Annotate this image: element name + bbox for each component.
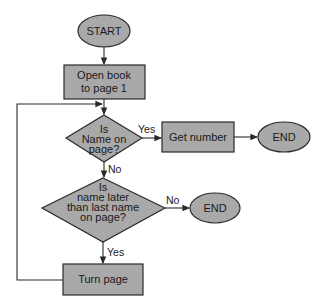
end-label-2: END — [203, 202, 226, 214]
open-book-label-line2: to page 1 — [81, 82, 127, 94]
end-terminator-not-found: END — [190, 193, 240, 223]
open-book-process: Open book to page 1 — [64, 65, 145, 99]
edge-label-no-1: No — [108, 163, 122, 175]
edge-label-yes-2: Yes — [107, 246, 124, 258]
flowchart-canvas: START Open book to page 1 Is Name on pag… — [0, 0, 323, 306]
start-label: START — [86, 25, 121, 37]
end-label-1: END — [272, 131, 295, 143]
get-number-label: Get number — [169, 131, 227, 143]
get-number-process: Get number — [162, 122, 234, 152]
edge-label-no-2: No — [166, 194, 180, 206]
start-terminator: START — [78, 15, 130, 47]
decision-name-later: Is name later than last name on page? — [42, 178, 165, 242]
turn-page-label: Turn page — [78, 273, 128, 285]
decision2-line4: on page? — [80, 211, 126, 223]
decision1-line3: page? — [89, 143, 120, 155]
decision-name-on-page: Is Name on page? — [66, 115, 142, 162]
end-terminator-found: END — [258, 122, 310, 152]
open-book-label-line1: Open book — [77, 69, 131, 81]
turn-page-process: Turn page — [63, 264, 143, 295]
edge-label-yes-1: Yes — [138, 123, 155, 135]
